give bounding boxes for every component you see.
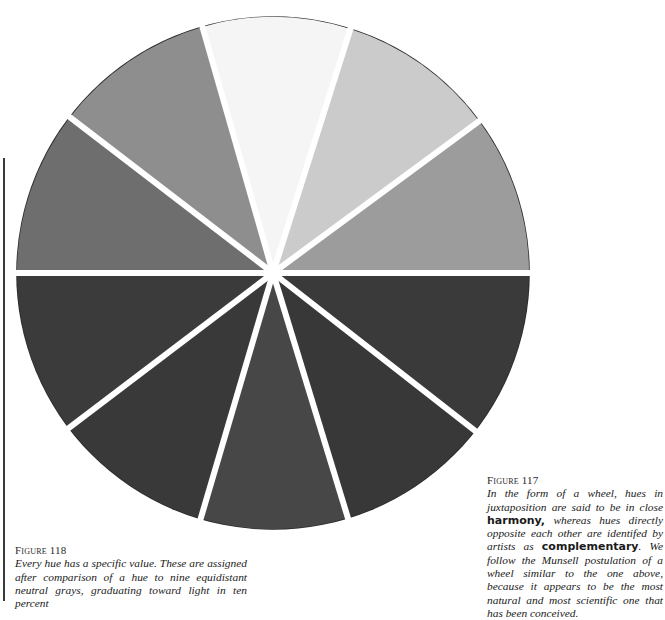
term-harmony: harmony,	[487, 514, 545, 527]
figure-118-text: Every hue has a specific value. These ar…	[15, 557, 247, 610]
figure-117-text: In the form of a wheel, hues in juxtapos…	[487, 487, 663, 620]
margin-rule	[3, 158, 5, 601]
color-value-wheel	[0, 0, 560, 560]
figure-118-label: Figure 118	[15, 544, 247, 557]
figure-118-caption: Figure 118 Every hue has a specific valu…	[15, 544, 247, 610]
term-complementary: complementary	[542, 540, 639, 553]
figure-117-caption: Figure 117 In the form of a wheel, hues …	[487, 474, 663, 620]
figure-117-label: Figure 117	[487, 474, 663, 487]
